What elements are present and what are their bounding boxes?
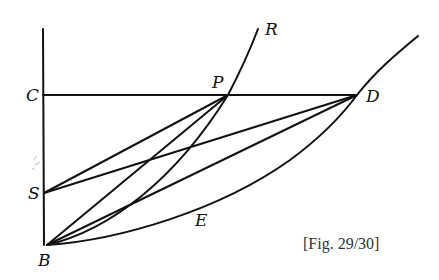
label-C: C [26,87,39,104]
curve-BPR [47,29,258,245]
label-R: R [265,21,278,38]
curve-BED [47,36,418,245]
label-D: D [366,88,380,105]
figure-caption: [Fig. 29/30] [303,236,379,252]
label-B: B [38,252,51,269]
vertical-axis [43,29,44,245]
label-E: E [195,212,207,229]
label-P: P [212,74,223,91]
label-S: S [28,185,40,202]
stray-mark [32,156,40,170]
